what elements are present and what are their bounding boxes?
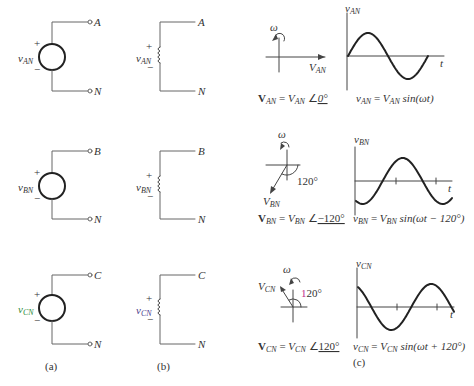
phasor-cn (280, 278, 307, 322)
wave-label-an: vAN (345, 2, 361, 16)
phasor-equation-cn: VCN = VCN ∠120° (258, 340, 339, 354)
source-label-bn: vBN (18, 181, 34, 195)
phasor-bn (266, 142, 300, 194)
source-cn (39, 273, 92, 346)
caption-c: (c) (353, 356, 366, 369)
omega-label: ω (270, 21, 278, 33)
wave-label-cn: vCN (356, 257, 372, 271)
omega-label: ω (278, 128, 286, 140)
phasor-label-bn: VBN (263, 195, 281, 209)
terminal-n-b3: N (197, 338, 206, 350)
plus-sign: + (146, 169, 152, 181)
terminal-c-b: C (198, 269, 206, 281)
minus-sign: − (34, 192, 40, 204)
terminal-a-b: A (197, 16, 205, 28)
terminal-n-b2: N (197, 213, 206, 225)
wave-label-bn: vBN (354, 133, 370, 147)
waveform-bn (355, 147, 452, 215)
angle-label-cn: 120° (301, 287, 322, 299)
terminal-a: A (93, 16, 101, 28)
source-an (39, 20, 92, 93)
terminal-n-1: N (93, 85, 102, 97)
time-equation-an: vAN = VAN sin(ωt) (356, 92, 434, 106)
coil-an (158, 22, 195, 91)
t-axis-label: t (440, 57, 444, 69)
time-equation-bn: vBN = VBN sin(ωt − 120°) (353, 212, 465, 226)
source-bn (39, 149, 92, 221)
three-phase-diagram: A N + − vAN A N + − vAN ω VAN vAN t VAN … (0, 0, 474, 386)
coil-label-bn: vBN (136, 181, 152, 195)
waveform-cn (357, 268, 454, 338)
terminal-c: C (94, 269, 102, 281)
caption-a: (a) (45, 360, 58, 373)
minus-sign: − (34, 63, 40, 75)
plus-sign: + (34, 37, 40, 49)
caption-b: (b) (157, 360, 170, 373)
phasor-equation-an: VAN = VAN ∠0° (258, 92, 328, 106)
waveform-an (347, 13, 444, 90)
terminal-b-b: B (198, 145, 205, 157)
phasor-equation-bn: VBN = VBN ∠−120° (258, 212, 345, 226)
coil-label-an: vAN (136, 52, 152, 66)
terminal-n-3: N (93, 338, 102, 350)
coil-cn (158, 275, 195, 344)
source-label-cn: vCN (18, 303, 34, 317)
coil-bn (158, 151, 195, 219)
phasor-label-cn: VCN (258, 280, 276, 294)
time-equation-cn: vCN = VCN sin(ωt + 120°) (353, 340, 466, 354)
phasor-label-an: VAN (309, 61, 327, 75)
plus-sign: + (146, 40, 152, 52)
plus-sign: + (34, 166, 40, 178)
coil-label-cn: vCN (136, 304, 152, 318)
t-axis-label: t (448, 182, 452, 194)
minus-sign: − (34, 314, 40, 326)
terminal-b: B (94, 145, 101, 157)
terminal-n-b1: N (197, 85, 206, 97)
omega-label: ω (283, 263, 291, 275)
angle-label-bn: 120° (297, 175, 318, 187)
plus-sign: + (146, 292, 152, 304)
source-label-an: vAN (18, 52, 34, 66)
terminal-n-2: N (93, 213, 102, 225)
plus-sign: + (34, 288, 40, 300)
